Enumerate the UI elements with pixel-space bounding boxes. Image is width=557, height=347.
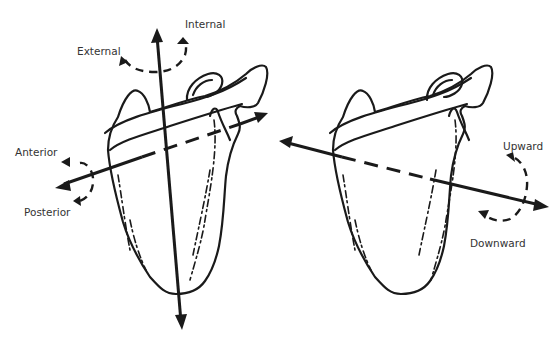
label-downward: Downward bbox=[470, 238, 526, 249]
label-posterior: Posterior bbox=[24, 207, 70, 218]
left-scapula bbox=[105, 66, 267, 294]
label-upward: Upward bbox=[503, 141, 543, 152]
label-anterior: Anterior bbox=[15, 147, 57, 158]
right-scapula bbox=[330, 66, 492, 294]
label-external: External bbox=[77, 46, 121, 57]
scapula-rotation-diagram: Internal External Anterior Posterior Upw… bbox=[0, 0, 557, 347]
label-internal: Internal bbox=[185, 19, 225, 30]
anteroposterior-axis bbox=[55, 112, 268, 206]
vertical-axis bbox=[119, 28, 189, 330]
